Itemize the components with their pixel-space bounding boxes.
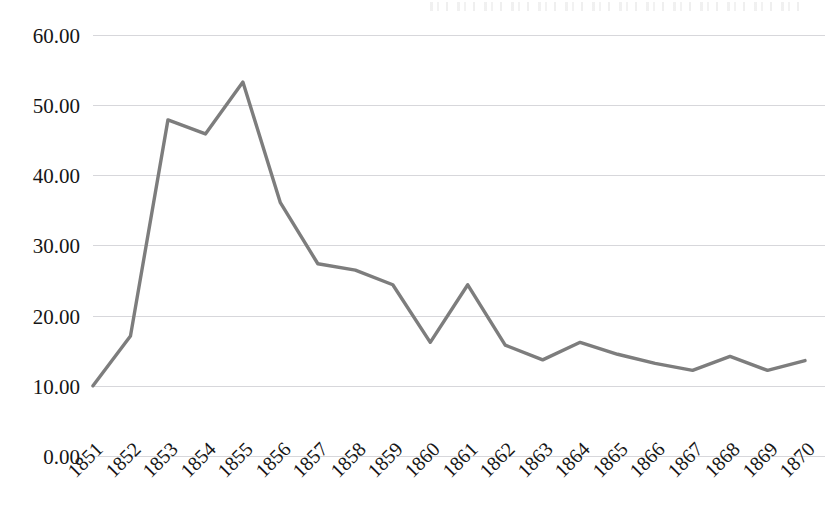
series-1-line: [93, 82, 805, 386]
chart-root: 60.00 50.00 40.00 30.00 20.00 10.00 0.00…: [0, 0, 837, 522]
plot-area: 60.00 50.00 40.00 30.00 20.00 10.00 0.00…: [0, 0, 837, 522]
